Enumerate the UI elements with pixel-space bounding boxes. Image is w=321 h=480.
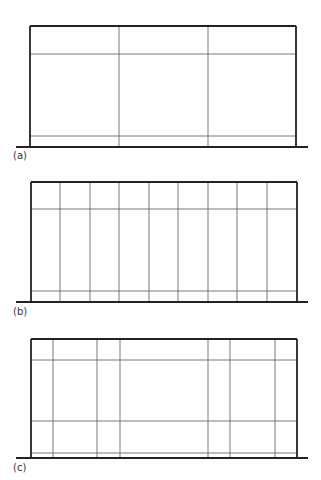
panel-b-frame	[16, 182, 308, 302]
panel-a-frame	[16, 26, 308, 147]
frame-diagrams	[0, 0, 321, 480]
panel-c-label: (c)	[13, 462, 26, 473]
panel-c-frame	[16, 339, 308, 458]
panel-a-label: (a)	[13, 150, 27, 161]
panel-b-label: (b)	[13, 306, 27, 317]
